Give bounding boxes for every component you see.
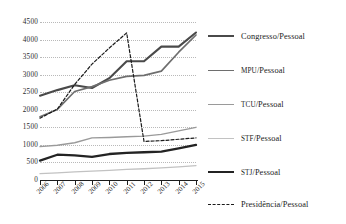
legend-label: STF/Pessoal xyxy=(241,134,282,143)
legend-item[interactable]: STF/Pessoal xyxy=(208,132,282,144)
x-axis-tick-label: 2013 xyxy=(156,180,172,196)
x-axis-tick-label: 2009 xyxy=(87,180,103,196)
x-axis-tick-label: 2012 xyxy=(139,180,155,196)
legend-label: TCU/Pessoal xyxy=(241,100,284,109)
y-axis-labels: 050010001500200025003000350040004500 xyxy=(0,0,38,224)
y-axis-tick-label: 2500 xyxy=(2,88,38,96)
y-axis-tick-label: 3000 xyxy=(2,71,38,79)
y-axis-tick-label: 2000 xyxy=(2,106,38,114)
y-axis-tick-label: 3500 xyxy=(2,53,38,61)
series-line xyxy=(40,145,196,161)
legend-item[interactable]: MPU/Pessoal xyxy=(208,64,285,76)
legend-swatch xyxy=(208,70,234,71)
x-axis-tick-label: 2011 xyxy=(122,180,137,195)
x-axis-tick-label: 2007 xyxy=(52,180,68,196)
legend-swatch xyxy=(208,138,234,139)
legend-swatch xyxy=(208,204,234,205)
series-line xyxy=(40,33,196,96)
y-axis-tick-label: 4000 xyxy=(2,36,38,44)
y-axis-tick-label: 500 xyxy=(2,158,38,166)
chart-legend: Congresso/PessoalMPU/PessoalTCU/PessoalS… xyxy=(208,20,346,206)
chart-container: 050010001500200025003000350040004500 200… xyxy=(0,0,346,224)
y-axis-tick-label: 4500 xyxy=(2,18,38,26)
legend-label: Congresso/Pessoal xyxy=(241,32,305,41)
series-line xyxy=(40,166,196,174)
legend-label: STJ/Pessoal xyxy=(241,168,281,177)
y-axis-tick-label: 1500 xyxy=(2,123,38,131)
legend-label: MPU/Pessoal xyxy=(241,66,285,75)
x-axis-tick-label: 2008 xyxy=(70,180,86,196)
x-axis-tick-label: 2014 xyxy=(174,180,190,196)
y-axis-tick-label: 0 xyxy=(2,176,38,184)
legend-label: Presidência/Pessoal xyxy=(241,200,308,209)
legend-item[interactable]: STJ/Pessoal xyxy=(208,166,281,178)
series-line xyxy=(40,33,196,142)
legend-item[interactable]: TCU/Pessoal xyxy=(208,98,284,110)
legend-swatch xyxy=(208,35,234,37)
series-lines xyxy=(40,22,196,180)
x-axis xyxy=(40,180,198,181)
x-axis-tick-label: 2015 xyxy=(191,180,207,196)
legend-item[interactable]: Presidência/Pessoal xyxy=(208,198,308,210)
x-axis-tick-label: 2010 xyxy=(104,180,120,196)
legend-swatch xyxy=(208,104,234,105)
plot-area xyxy=(40,22,196,180)
y-axis-tick-label: 1000 xyxy=(2,141,38,149)
legend-item[interactable]: Congresso/Pessoal xyxy=(208,30,305,42)
legend-swatch xyxy=(208,171,234,173)
series-line xyxy=(40,127,196,146)
